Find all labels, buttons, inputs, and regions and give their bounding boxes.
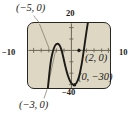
- axis-label-x-max: 10: [119, 48, 128, 57]
- point-marker-y-intercept: [72, 83, 75, 86]
- point-marker-root-2: [77, 48, 80, 51]
- leader-line-neg3: [44, 90, 47, 99]
- axis-label-y-min: −40: [62, 88, 75, 97]
- leader-line-neg5-inner: [39, 24, 49, 48]
- axis-label-y-max: 20: [66, 9, 75, 18]
- label-y-intercept: (0, −30): [78, 72, 112, 83]
- label-root-neg3: (−3, 0): [19, 100, 48, 111]
- label-root-2: (2, 0): [85, 53, 107, 64]
- axis-label-x-min: −10: [2, 48, 15, 57]
- cubic-graph-figure: (−5, 0) (−3, 0) (2, 0) (0, −30) −10 10 2…: [0, 0, 137, 117]
- label-root-neg5: (−5, 0): [16, 3, 45, 14]
